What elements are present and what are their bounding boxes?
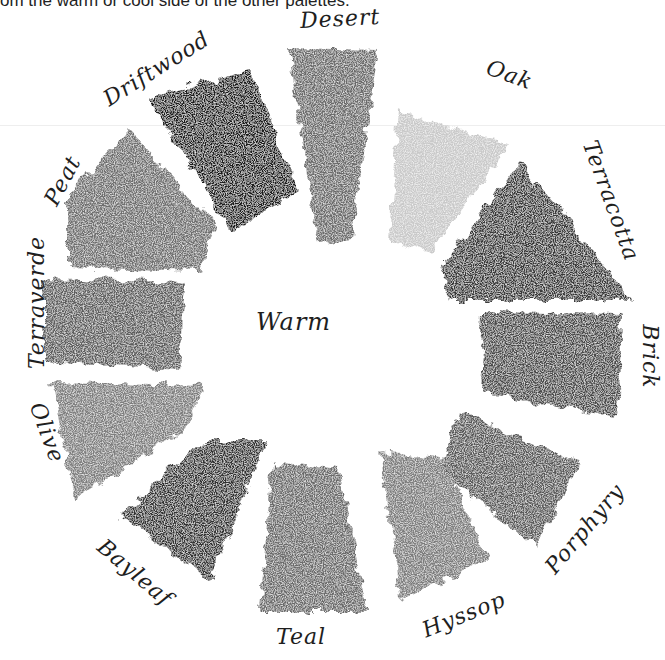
swatch-teal bbox=[260, 462, 366, 612]
center-label: Warm bbox=[256, 308, 331, 336]
swatch-brick bbox=[480, 312, 622, 418]
label-desert: Desert bbox=[299, 4, 381, 33]
label-terraverde: Terraverde bbox=[24, 236, 49, 369]
label-teal: Teal bbox=[276, 624, 326, 649]
swatch-terraverde bbox=[45, 278, 185, 370]
swatch-desert bbox=[288, 48, 378, 244]
label-brick: Brick bbox=[638, 324, 663, 388]
swatch-bayleaf bbox=[120, 440, 268, 580]
